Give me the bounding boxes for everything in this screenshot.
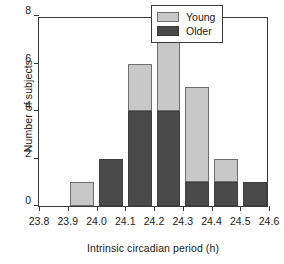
- y-tick-mark: [34, 110, 39, 111]
- bar-segment-young: [185, 87, 209, 182]
- legend-swatch-young-icon: [157, 12, 179, 22]
- bar-stack: [70, 182, 94, 206]
- bar-stack: [128, 64, 152, 207]
- plot-frame: 02468 23.823.924.024.124.224.324.424.524…: [38, 17, 268, 207]
- x-axis-title: Intrinsic circadian period (h): [38, 242, 268, 254]
- bar-segment-older: [157, 111, 181, 206]
- y-tick-label: 6: [25, 52, 31, 64]
- y-tick-label: 2: [25, 147, 31, 159]
- x-tick-label: 24.1: [115, 215, 135, 227]
- bar-segment-older: [214, 182, 238, 206]
- legend-swatch-older-icon: [157, 26, 179, 36]
- x-tick-mark: [154, 206, 155, 211]
- x-tick-mark: [39, 206, 40, 211]
- bar-segment-older: [185, 182, 209, 206]
- legend-label-older: Older: [186, 26, 212, 37]
- x-tick-label: 23.9: [58, 215, 78, 227]
- histogram-figure: Number of subjects Intrinsic circadian p…: [0, 0, 284, 264]
- plot-area: 02468 23.823.924.024.124.224.324.424.524…: [39, 18, 267, 206]
- legend: Young Older: [151, 5, 223, 43]
- legend-label-young: Young: [186, 12, 215, 23]
- bar-stack: [243, 182, 267, 206]
- bar-segment-older: [128, 111, 152, 206]
- bar-segment-young: [157, 40, 181, 111]
- x-tick-label: 23.8: [29, 215, 49, 227]
- x-tick-label: 24.6: [259, 215, 279, 227]
- x-tick-mark: [212, 206, 213, 211]
- bar-segment-older: [99, 159, 123, 207]
- y-tick-mark: [34, 63, 39, 64]
- x-tick-mark: [269, 206, 270, 211]
- x-tick-mark: [125, 206, 126, 211]
- x-tick-mark: [68, 206, 69, 211]
- bar-segment-older: [243, 182, 267, 206]
- bar-segment-young: [128, 64, 152, 112]
- x-tick-label: 24.4: [201, 215, 221, 227]
- legend-item-young: Young: [157, 10, 215, 24]
- y-tick-label: 4: [25, 99, 31, 111]
- x-tick-label: 24.0: [86, 215, 106, 227]
- bar-stack: [99, 159, 123, 207]
- legend-item-older: Older: [157, 24, 215, 38]
- x-tick-label: 24.3: [173, 215, 193, 227]
- bar-segment-young: [70, 182, 94, 206]
- y-tick-label: 0: [25, 194, 31, 206]
- x-tick-label: 24.5: [230, 215, 250, 227]
- x-tick-mark: [97, 206, 98, 211]
- x-tick-label: 24.2: [144, 215, 164, 227]
- y-tick-mark: [34, 158, 39, 159]
- x-tick-mark: [183, 206, 184, 211]
- bar-stack: [157, 40, 181, 206]
- y-tick-label: 8: [25, 4, 31, 16]
- bar-segment-young: [214, 159, 238, 183]
- bar-stack: [214, 159, 238, 207]
- bar-stack: [185, 87, 209, 206]
- x-tick-mark: [240, 206, 241, 211]
- y-tick-mark: [34, 15, 39, 16]
